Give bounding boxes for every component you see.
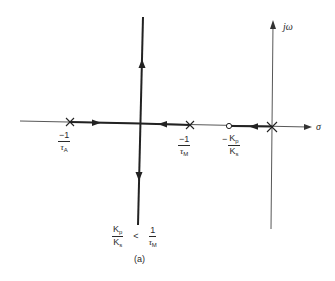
locus-arrow-right <box>92 120 101 127</box>
figure-caption: (a) <box>134 255 145 264</box>
pole-tau-a-label: −1 τA <box>58 131 70 153</box>
real-axis-arrowhead <box>304 124 312 130</box>
locus-arrow-left-middle <box>158 121 167 128</box>
locus-segment-left <box>70 122 140 124</box>
zero-label: − Kp Ks <box>222 134 240 157</box>
root-locus-diagram <box>0 0 335 281</box>
gain-condition: Kp Ks < 1 τM <box>112 225 157 248</box>
zero-marker <box>226 123 231 128</box>
locus-arrow-left-right <box>249 123 258 130</box>
pole-tau-m-label: −1 τM <box>178 135 190 157</box>
locus-arrow-down <box>136 172 143 181</box>
imag-axis-label: jω <box>283 22 293 32</box>
real-axis-label: σ <box>316 122 321 132</box>
locus-vertical-branch <box>138 17 143 225</box>
imag-axis-arrowhead <box>270 20 276 29</box>
locus-arrow-up <box>139 59 146 68</box>
